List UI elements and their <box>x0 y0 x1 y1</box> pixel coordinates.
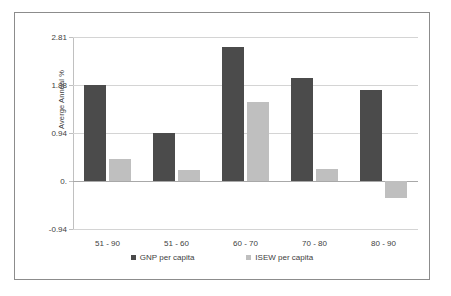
x-category-label: 60 - 70 <box>233 239 258 248</box>
gridline <box>73 37 418 38</box>
y-tick-label: 1.88 <box>51 80 67 89</box>
legend-swatch-icon <box>131 255 136 260</box>
x-category-label: 70 - 80 <box>302 239 327 248</box>
bar-gnp-51-60[interactable] <box>153 133 175 181</box>
gridline <box>73 229 418 230</box>
bar-gnp-51-90[interactable] <box>84 85 106 181</box>
y-tick-mark <box>69 229 73 230</box>
bar-gnp-80-90[interactable] <box>360 90 382 181</box>
bar-isew-60-70[interactable] <box>247 102 269 181</box>
chart-legend: GNP per capitaISEW per capita <box>15 253 429 262</box>
x-category-label: 51 - 90 <box>95 239 120 248</box>
legend-item-isew[interactable]: ISEW per capita <box>246 253 313 262</box>
plot-area: 2.811.880.940.-0.94 51 - 9051 - 6060 - 7… <box>73 37 418 229</box>
y-tick-mark <box>69 133 73 134</box>
x-category-label: 80 - 90 <box>371 239 396 248</box>
chart-container: Averge Annual % 2.811.880.940.-0.94 51 -… <box>14 12 430 280</box>
bar-isew-51-60[interactable] <box>178 170 200 181</box>
gridline <box>73 85 418 86</box>
legend-swatch-icon <box>246 255 251 260</box>
y-tick-mark <box>69 37 73 38</box>
y-tick-label: 0.94 <box>51 128 67 137</box>
legend-label: GNP per capita <box>140 253 195 262</box>
y-tick-label: 0. <box>60 176 67 185</box>
bar-isew-51-90[interactable] <box>109 159 131 181</box>
bar-isew-70-80[interactable] <box>316 169 338 181</box>
gridline <box>73 181 418 182</box>
bar-isew-80-90[interactable] <box>385 181 407 198</box>
legend-item-gnp[interactable]: GNP per capita <box>131 253 195 262</box>
legend-label: ISEW per capita <box>255 253 313 262</box>
y-axis-title: Averge Annual % <box>57 45 66 155</box>
bar-gnp-60-70[interactable] <box>222 47 244 181</box>
y-tick-label: -0.94 <box>49 225 67 234</box>
bar-gnp-70-80[interactable] <box>291 78 313 181</box>
y-tick-mark <box>69 181 73 182</box>
y-tick-mark <box>69 85 73 86</box>
y-tick-label: 2.81 <box>51 33 67 42</box>
x-category-label: 51 - 60 <box>164 239 189 248</box>
